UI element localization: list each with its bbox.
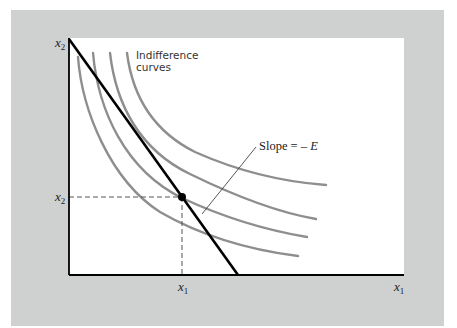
indifference-curve-3 [110,53,316,219]
diagram-canvas [0,0,457,328]
slope-label-prefix: Slope = – [259,139,310,153]
y-axis-label: x2 [55,36,65,52]
slope-label-var: E [310,139,318,153]
guide-lines [69,197,182,275]
tangency-point [178,193,186,201]
slope-label: Slope = – E [259,140,318,153]
indifference-label-line2: curves [136,61,198,73]
slope-pointer [202,147,256,214]
x-tick-label: x1 [178,280,188,296]
y-tick-label: x2 [55,190,65,206]
indifference-label-line1: Indifference [136,49,198,61]
x-axis-label: x1 [394,280,404,296]
x-axis-label-sub: 1 [400,286,405,296]
x-tick-label-sub: 1 [184,286,189,296]
y-axis-label-sub: 2 [61,42,66,52]
indifference-curves-label: Indifference curves [136,49,198,73]
indifference-curve-1 [78,57,298,256]
y-tick-label-sub: 2 [61,196,66,206]
budget-line [69,39,238,275]
axes [69,38,404,275]
